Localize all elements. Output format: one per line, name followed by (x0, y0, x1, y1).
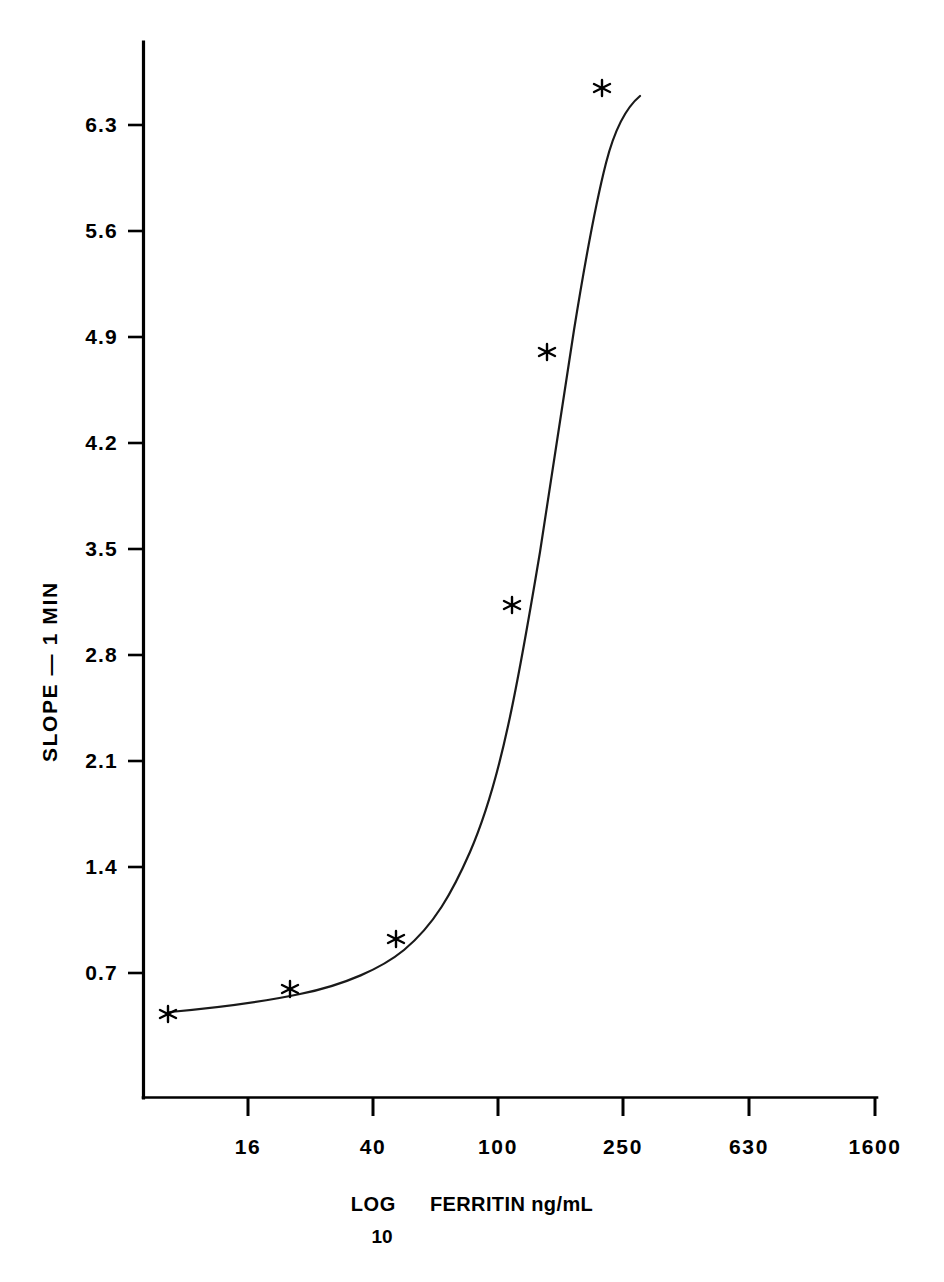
y-tick-label-0-7: 0.7 (40, 961, 118, 985)
chart-svg (0, 0, 944, 1150)
x-tick-label-40: 40 (360, 1135, 387, 1159)
y-tick-label-6-3: 6.3 (40, 113, 118, 137)
y-tick-label-5-6: 5.6 (40, 219, 118, 243)
data-point-marker (594, 80, 610, 96)
x-axis-title-subscript: 10 (0, 1226, 944, 1248)
y-tick-label-4-9: 4.9 (40, 325, 118, 349)
x-tick-label-250: 250 (603, 1135, 643, 1159)
x-tick-label-100: 100 (478, 1135, 518, 1159)
figure-root: 6.3 5.6 4.9 4.2 3.5 2.8 2.1 1.4 0.7 SLOP… (0, 0, 944, 1282)
x-tick-label-16: 16 (235, 1135, 262, 1159)
data-point-markers (160, 80, 610, 1022)
figure-caption (118, 1266, 838, 1282)
chart-plot-area: 6.3 5.6 4.9 4.2 3.5 2.8 2.1 1.4 0.7 SLOP… (0, 0, 944, 1150)
data-point-marker (160, 1006, 176, 1022)
data-point-marker (504, 597, 520, 613)
data-curve (170, 96, 640, 1012)
x-axis-title-log: LOG (351, 1193, 396, 1215)
x-tick-label-1600: 1600 (848, 1135, 901, 1159)
y-tick-label-1-4: 1.4 (40, 855, 118, 879)
y-axis-ticks (128, 125, 143, 973)
x-tick-label-630: 630 (729, 1135, 769, 1159)
data-point-marker (539, 344, 555, 360)
y-tick-label-4-2: 4.2 (40, 431, 118, 455)
data-point-marker (388, 931, 404, 947)
x-axis-title: LOGFERRITIN ng/mL (0, 1193, 944, 1216)
y-tick-label-3-5: 3.5 (40, 537, 118, 561)
y-axis-title: SLOPE — 1 MIN (38, 581, 62, 762)
x-axis-title-main: FERRITIN ng/mL (430, 1193, 593, 1215)
x-axis-ticks (248, 1098, 875, 1116)
